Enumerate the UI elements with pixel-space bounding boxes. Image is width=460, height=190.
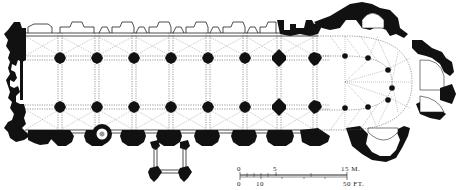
south-porch (148, 140, 192, 182)
chevet-north (277, 2, 456, 104)
aisle-vault-ribs (25, 36, 315, 130)
south-buttresses (28, 124, 294, 146)
scale-bar: 0 5 15 M. 0 10 50 FT. (237, 165, 364, 188)
scale-metric-5: 5 (273, 165, 277, 173)
scale-metric-0: 0 (237, 165, 241, 173)
aisle-walls (25, 33, 318, 133)
nave-piers (54, 49, 322, 116)
scale-imperial-10: 10 (256, 180, 264, 188)
chevet-south (300, 96, 446, 162)
scale-imperial-50: 50 FT. (343, 180, 364, 188)
floor-plan: 0 5 15 M. 0 10 50 FT. (0, 0, 460, 190)
transverse-ribs (58, 33, 317, 133)
west-facade (4, 22, 30, 142)
apse-vaulting (318, 36, 412, 130)
arcade-lines (25, 56, 330, 109)
north-chapels (28, 22, 276, 33)
scale-imperial-0: 0 (237, 180, 241, 188)
scale-metric-15: 15 M. (341, 165, 360, 173)
